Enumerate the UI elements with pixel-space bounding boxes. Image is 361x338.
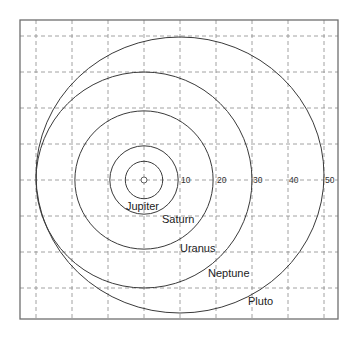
frame [20,20,338,319]
label-uranus: Uranus [180,242,216,254]
tick-label-30: 30 [253,175,263,185]
solar-system-diagram: 10 20 30 40 50 Jupiter Saturn Uranus Nep… [0,0,361,338]
label-pluto: Pluto [248,295,273,307]
sun-icon [141,177,147,183]
label-neptune: Neptune [208,267,250,279]
grid [20,20,338,319]
tick-label-40: 40 [289,175,299,185]
label-saturn: Saturn [162,213,194,225]
tick-label-20: 20 [217,175,227,185]
label-jupiter: Jupiter [126,200,159,212]
tick-label-10: 10 [181,175,191,185]
tick-label-50: 50 [325,175,335,185]
